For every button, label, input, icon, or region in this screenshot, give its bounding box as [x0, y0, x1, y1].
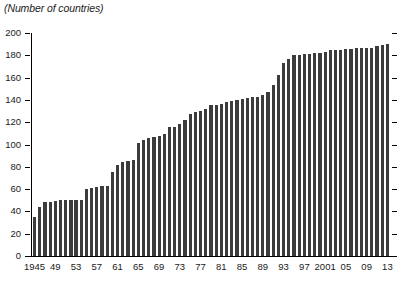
y-tick-mark: [25, 33, 30, 34]
y-tick-mark: [25, 234, 30, 235]
bar: [277, 75, 280, 256]
bar: [272, 85, 275, 256]
y-tick-mark: [392, 167, 397, 168]
bar: [95, 187, 98, 256]
y-tick-mark: [25, 189, 30, 190]
x-tick-label: 53: [71, 262, 82, 272]
bars-layer: [32, 33, 390, 256]
y-tick-label: 80: [10, 162, 21, 172]
x-tick-label: 89: [258, 262, 269, 272]
x-tick-label: 93: [278, 262, 289, 272]
plot-area: [32, 33, 390, 256]
bar: [142, 140, 145, 256]
y-tick-mark: [392, 122, 397, 123]
bar: [266, 92, 269, 256]
bar: [318, 53, 321, 256]
bar: [158, 136, 161, 256]
bar: [126, 161, 129, 256]
y-tick-label: 180: [5, 50, 21, 60]
bar: [204, 109, 207, 256]
y-tick-label: 200: [5, 28, 21, 38]
bar: [121, 162, 124, 256]
bar: [220, 104, 223, 256]
bar: [324, 52, 327, 256]
bar: [111, 172, 114, 256]
bar: [215, 105, 218, 256]
bar: [33, 217, 36, 256]
x-tick-label: 81: [216, 262, 227, 272]
y-tick-mark: [392, 78, 397, 79]
bar: [38, 207, 41, 256]
bar: [209, 105, 212, 256]
bar: [256, 97, 259, 256]
y-tick-mark: [25, 100, 30, 101]
bar: [282, 63, 285, 256]
bar: [59, 200, 62, 256]
x-tick-label: 61: [112, 262, 123, 272]
x-tick-label: 57: [92, 262, 103, 272]
y-tick-mark: [392, 189, 397, 190]
bar: [132, 160, 135, 256]
x-tick-label: 1945: [24, 262, 45, 272]
bar: [339, 50, 342, 256]
bar: [54, 201, 57, 256]
y-tick-label: 140: [5, 95, 21, 105]
bar: [298, 55, 301, 256]
y-tick-mark: [392, 100, 397, 101]
y-tick-mark: [25, 122, 30, 123]
bar: [168, 127, 171, 256]
bar: [199, 111, 202, 256]
bar: [230, 101, 233, 256]
y-tick-label: 100: [5, 140, 21, 150]
chart-title: (Number of countries): [4, 2, 103, 14]
bar: [329, 50, 332, 256]
bar: [80, 200, 83, 256]
bar: [152, 137, 155, 256]
bar: [106, 186, 109, 256]
x-tick-label: 77: [195, 262, 206, 272]
y-tick-label: 160: [5, 73, 21, 83]
y-tick-mark: [392, 256, 397, 257]
y-tick-mark: [392, 55, 397, 56]
bar-chart: (Number of countries) 020406080100120140…: [0, 0, 409, 286]
bar: [74, 200, 77, 256]
bar: [381, 45, 384, 256]
bar: [137, 143, 140, 256]
x-tick-label: 73: [175, 262, 186, 272]
bar: [251, 97, 254, 256]
bar: [360, 48, 363, 257]
y-tick-mark: [392, 33, 397, 34]
x-tick-label: 49: [50, 262, 61, 272]
y-tick-label: 40: [10, 206, 21, 216]
bar: [370, 48, 373, 257]
bar: [100, 186, 103, 256]
bar: [287, 59, 290, 256]
x-tick-label: 85: [237, 262, 248, 272]
bar: [43, 202, 46, 256]
bar: [308, 54, 311, 256]
y-tick-mark: [25, 55, 30, 56]
bar: [69, 200, 72, 256]
bar: [365, 48, 368, 257]
y-tick-label: 0: [16, 251, 21, 261]
x-tick-label: 09: [361, 262, 372, 272]
y-tick-mark: [25, 78, 30, 79]
bar: [375, 46, 378, 256]
bar: [241, 99, 244, 256]
x-tick-label: 2001: [315, 262, 336, 272]
y-tick-mark: [25, 256, 30, 257]
bar: [173, 127, 176, 256]
bar: [349, 49, 352, 256]
bar: [246, 98, 249, 256]
bar: [163, 134, 166, 256]
y-tick-mark: [25, 211, 30, 212]
bar: [313, 53, 316, 256]
x-tick-label: 65: [133, 262, 144, 272]
y-tick-mark: [25, 145, 30, 146]
bar: [334, 50, 337, 256]
y-tick-label: 60: [10, 184, 21, 194]
bar: [344, 49, 347, 256]
bar: [194, 112, 197, 256]
bar: [261, 95, 264, 256]
bar: [64, 200, 67, 256]
